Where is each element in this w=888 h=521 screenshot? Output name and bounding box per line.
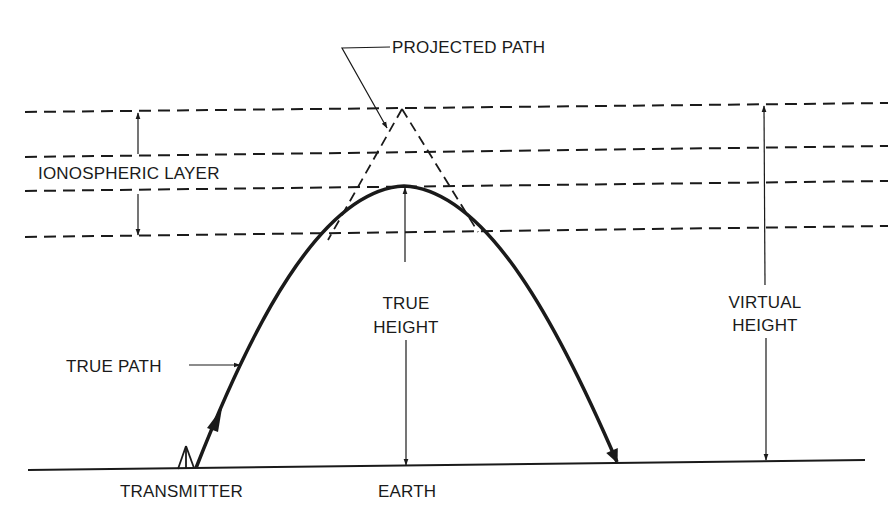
true-path-label: TRUE PATH (66, 357, 162, 376)
boundary-line-bottom (25, 226, 888, 237)
transmitter-label: TRANSMITTER (120, 482, 243, 501)
earth-surface-line (28, 460, 865, 470)
true-height-label-1: TRUE (382, 294, 429, 313)
virtual-height-label-1: VIRTUAL (729, 293, 802, 312)
transmitter-antenna-icon (178, 446, 194, 469)
true-height-label-2: HEIGHT (373, 318, 438, 337)
projected-path (328, 109, 478, 240)
earth-label: EARTH (378, 482, 436, 501)
projected-path-leader (342, 47, 390, 128)
boundary-line-upper (25, 146, 888, 157)
ionosphere-diagram: PROJECTED PATH IONOSPHERIC LAYER TRUE HE… (0, 0, 888, 521)
projected-path-label: PROJECTED PATH (392, 38, 545, 57)
boundary-line-top (25, 103, 888, 112)
true-path-up-arrowhead (207, 408, 222, 432)
virtual-height-label-2: HEIGHT (732, 316, 797, 335)
virtual-height-arrow (764, 106, 766, 460)
ionospheric-layer-label: IONOSPHERIC LAYER (38, 164, 220, 183)
